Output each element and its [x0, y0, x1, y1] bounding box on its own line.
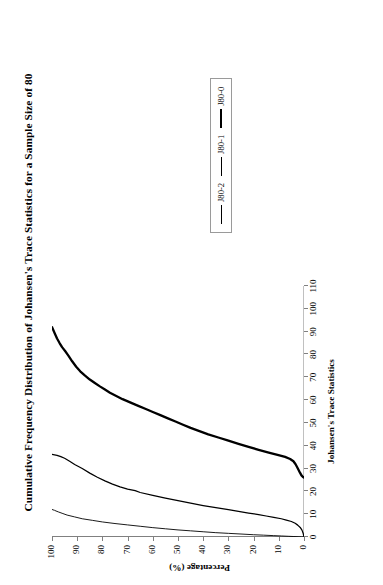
chart-legend: J80-2 J80-1 J80-0 [210, 78, 232, 233]
y-tick-label: 10 [273, 545, 283, 571]
tick-mark [279, 537, 280, 541]
tick-mark [228, 537, 229, 541]
y-tick-label: 20 [248, 545, 258, 571]
tick-mark [304, 490, 308, 491]
x-tick-label: 90 [308, 319, 318, 345]
legend-swatch-line-icon [221, 205, 222, 224]
x-tick-label: 60 [308, 387, 318, 413]
y-tick-label: 60 [147, 545, 157, 571]
tick-mark [304, 445, 308, 446]
tick-mark [304, 331, 308, 332]
tick-mark [304, 308, 308, 309]
tick-mark [304, 285, 308, 286]
tick-mark [304, 513, 308, 514]
y-tick-label: 80 [96, 545, 106, 571]
tick-mark [128, 537, 129, 541]
axis-lines [52, 286, 304, 537]
tick-mark [178, 537, 179, 541]
tick-mark [304, 376, 308, 377]
x-tick-label: 100 [308, 296, 318, 322]
x-tick-label: 30 [308, 456, 318, 482]
tick-mark [77, 537, 78, 541]
tick-mark [203, 537, 204, 541]
x-tick-label: 20 [308, 478, 318, 504]
x-axis-title: Johansen's Trace Statistics [326, 286, 336, 537]
legend-label: J80-0 [216, 87, 226, 106]
tick-mark [304, 468, 308, 469]
legend-entry-j80-2: J80-2 [216, 183, 226, 224]
y-axis-title: Percentage (%) [169, 563, 230, 573]
legend-entry-j80-0: J80-0 [216, 87, 226, 128]
tick-mark [52, 537, 53, 541]
y-tick-label: 100 [46, 545, 56, 571]
legend-swatch-line-icon [220, 109, 222, 128]
tick-mark [304, 422, 308, 423]
tick-mark [254, 537, 255, 541]
tick-mark [153, 537, 154, 541]
series-line-j80-2 [52, 509, 304, 537]
legend-label: J80-1 [216, 135, 226, 154]
x-tick-label: 10 [308, 501, 318, 527]
y-tick-label: 0 [298, 545, 308, 571]
tick-mark [102, 537, 103, 541]
y-tick-label: 70 [122, 545, 132, 571]
y-tick-label: 90 [71, 545, 81, 571]
x-tick-label: 80 [308, 341, 318, 367]
x-tick-label: 40 [308, 433, 318, 459]
legend-label: J80-2 [216, 183, 226, 202]
legend-swatch-line-icon [221, 157, 222, 176]
plot-svg [52, 286, 304, 537]
x-tick-label: 50 [308, 410, 318, 436]
x-tick-label: 70 [308, 364, 318, 390]
series-line-j80-0 [52, 327, 304, 478]
chart-figure: Cumulative Frequency Distribution of Joh… [0, 0, 383, 585]
tick-mark [304, 353, 308, 354]
tick-mark [304, 399, 308, 400]
plot-area [52, 286, 304, 537]
rotated-figure-wrapper: Cumulative Frequency Distribution of Joh… [0, 0, 383, 585]
series-line-j80-1 [52, 454, 304, 537]
chart-title: Cumulative Frequency Distribution of Joh… [22, 0, 34, 585]
x-tick-label: 0 [308, 524, 318, 550]
x-tick-label: 110 [308, 273, 318, 299]
tick-mark [304, 537, 305, 541]
legend-entry-j80-1: J80-1 [216, 135, 226, 176]
